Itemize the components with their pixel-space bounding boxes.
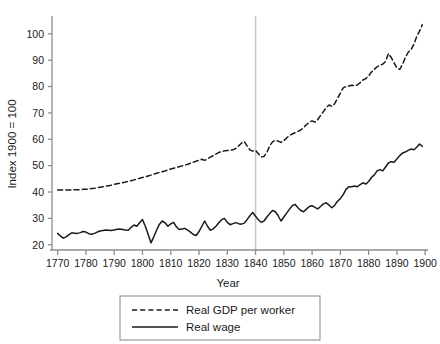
x-tick-label: 1860 xyxy=(300,257,324,269)
chart-background xyxy=(0,0,440,344)
x-tick-label: 1900 xyxy=(413,257,437,269)
y-tick-label: 60 xyxy=(32,133,44,145)
legend-label-1: Real wage xyxy=(186,321,240,333)
y-tick-label: 40 xyxy=(32,186,44,198)
legend-box xyxy=(120,296,320,340)
y-tick-label: 30 xyxy=(32,212,44,224)
y-tick-label: 50 xyxy=(32,159,44,171)
y-tick-label: 20 xyxy=(32,239,44,251)
y-tick-label: 80 xyxy=(32,80,44,92)
chart-container: 2030405060708090100 17701780179018001810… xyxy=(0,0,440,344)
y-tick-label: 70 xyxy=(32,107,44,119)
x-tick-label: 1870 xyxy=(329,257,353,269)
x-tick-label: 1850 xyxy=(272,257,296,269)
x-tick-label: 1810 xyxy=(159,257,183,269)
legend-label-0: Real GDP per worker xyxy=(186,304,295,316)
y-tick-label: 90 xyxy=(32,54,44,66)
x-tick-label: 1880 xyxy=(357,257,381,269)
x-tick-label: 1770 xyxy=(46,257,70,269)
x-axis-title: Year xyxy=(216,277,239,289)
x-tick-label: 1800 xyxy=(131,257,155,269)
x-tick-label: 1790 xyxy=(103,257,127,269)
x-tick-label: 1780 xyxy=(74,257,98,269)
x-tick-label: 1830 xyxy=(216,257,240,269)
y-tick-label: 100 xyxy=(26,28,44,40)
line-chart: 2030405060708090100 17701780179018001810… xyxy=(0,0,440,344)
y-axis-title: Index 1900 = 100 xyxy=(6,99,18,188)
x-tick-label: 1820 xyxy=(187,257,211,269)
chart-legend: Real GDP per workerReal wage xyxy=(120,296,320,340)
x-tick-label: 1840 xyxy=(244,257,268,269)
x-tick-label: 1890 xyxy=(385,257,409,269)
